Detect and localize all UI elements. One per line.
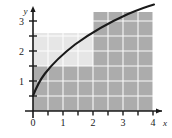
- x-tick-label-3: 3: [121, 117, 126, 128]
- y-tick-labels: 1 2 3: [19, 16, 24, 87]
- x-axis-label: x: [162, 118, 167, 128]
- y-axis-label: y: [23, 6, 28, 16]
- x-tick-label-2: 2: [91, 117, 96, 128]
- x-tick-label-1: 1: [61, 117, 66, 128]
- y-tick-label-2: 2: [19, 46, 24, 57]
- riemann-sum-plot: 0 1 2 3 4 1 2 3 y x: [0, 0, 172, 138]
- y-tick-label-1: 1: [19, 76, 24, 87]
- chart-figure: 0 1 2 3 4 1 2 3 y x: [0, 0, 172, 138]
- y-tick-label-3: 3: [19, 16, 24, 27]
- x-tick-label-4: 4: [151, 117, 156, 128]
- x-tick-label-0: 0: [31, 117, 36, 128]
